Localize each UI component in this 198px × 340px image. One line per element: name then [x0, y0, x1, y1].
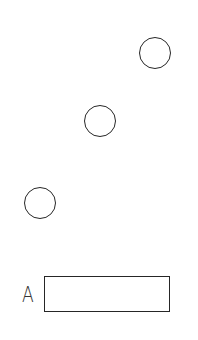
answer-label: A: [22, 284, 34, 306]
circle-top-right: [139, 37, 171, 69]
circle-middle: [84, 105, 116, 137]
answer-box[interactable]: [44, 276, 170, 312]
diagram-canvas: A: [0, 0, 198, 340]
circle-bottom-left: [24, 187, 56, 219]
